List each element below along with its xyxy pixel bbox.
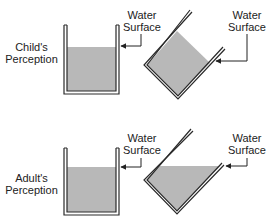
adult-upright-leader <box>121 158 141 167</box>
child-tilted-leader <box>216 34 247 61</box>
adult-upright-beaker <box>64 148 119 215</box>
adult-tilted-water-surface-label: Water Surface <box>226 132 268 156</box>
adult-perception-label: Adult's Perception <box>0 172 63 196</box>
child-upright-leader <box>121 34 141 46</box>
child-upright-water-surface-label: Water Surface <box>121 9 163 33</box>
adult-upright-water-surface-label: Water Surface <box>121 132 163 156</box>
child-perception-label: Child's Perception <box>0 41 63 65</box>
child-upright-beaker <box>64 25 119 94</box>
child-tilted-water-surface-label: Water Surface <box>226 9 268 33</box>
adult-tilted-leader <box>226 158 247 166</box>
